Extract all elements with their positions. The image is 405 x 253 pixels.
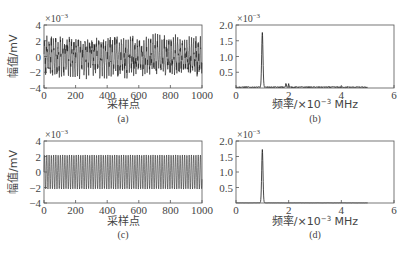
y-tick-label: 2 bbox=[36, 151, 42, 163]
panel-b: 2.01.51.00.50246×10−3频率/×10−3 MHz(b) bbox=[219, 12, 397, 125]
plot-frame bbox=[236, 25, 394, 88]
y-tick-label: −4 bbox=[29, 197, 41, 209]
x-tick-label: 0 bbox=[233, 204, 239, 216]
panel-caption: (c) bbox=[117, 229, 128, 241]
y-exponent: ×10−3 bbox=[237, 12, 261, 24]
y-tick-label: 2 bbox=[36, 35, 42, 47]
x-axis-label: 采样点 bbox=[107, 214, 140, 228]
panel-caption: (a) bbox=[117, 113, 128, 125]
y-tick-label: 0.5 bbox=[219, 66, 233, 78]
y-axis-label: 幅值/mV bbox=[7, 34, 20, 78]
x-tick-label: 200 bbox=[67, 204, 84, 216]
plot-frame bbox=[236, 141, 394, 203]
panel-a: 420−2−402004006008001000×10−3采样点幅值/mV(a) bbox=[7, 12, 214, 125]
y-tick-label: 4 bbox=[36, 19, 42, 31]
x-tick-label: 1000 bbox=[191, 204, 214, 216]
y-exponent: ×10−3 bbox=[45, 128, 69, 140]
x-tick-label: 200 bbox=[67, 89, 84, 101]
x-tick-label: 6 bbox=[391, 89, 397, 101]
y-tick-label: 2.0 bbox=[219, 135, 233, 147]
y-tick-label: −2 bbox=[29, 66, 41, 78]
y-axis-label: 幅值/mV bbox=[7, 150, 20, 194]
y-tick-label: 1.5 bbox=[219, 35, 233, 47]
x-tick-label: 800 bbox=[162, 89, 179, 101]
panel-d: 2.01.51.00.50246×10−3频率/×10−3 MHz(d) bbox=[219, 128, 397, 241]
x-tick-label: 0 bbox=[233, 89, 239, 101]
y-tick-label: −2 bbox=[29, 182, 41, 194]
y-tick-label: 1.0 bbox=[219, 51, 233, 63]
series-line bbox=[44, 155, 202, 189]
x-tick-label: 0 bbox=[41, 89, 47, 101]
x-tick-label: 800 bbox=[162, 204, 179, 216]
series-line bbox=[44, 33, 202, 79]
figure: 420−2−402004006008001000×10−3采样点幅值/mV(a)… bbox=[0, 0, 405, 253]
panel-c: 420−2−402004006008001000×10−3采样点幅值/mV(c) bbox=[7, 128, 214, 241]
series-line bbox=[236, 150, 368, 203]
y-tick-label: 2.0 bbox=[219, 19, 233, 31]
y-tick-label: 0 bbox=[36, 166, 42, 178]
y-tick-label: 0 bbox=[36, 51, 42, 63]
x-axis-label: 频率/×10−3 MHz bbox=[272, 214, 359, 228]
series-line bbox=[236, 33, 368, 88]
x-axis-label: 频率/×10−3 MHz bbox=[272, 97, 359, 111]
y-tick-label: 0.5 bbox=[219, 182, 233, 194]
y-tick-label: 1.0 bbox=[219, 166, 233, 178]
y-exponent: ×10−3 bbox=[237, 128, 261, 140]
y-tick-label: 1.5 bbox=[219, 151, 233, 163]
x-tick-label: 6 bbox=[391, 204, 397, 216]
x-axis-label: 采样点 bbox=[107, 97, 140, 111]
x-tick-label: 0 bbox=[41, 204, 47, 216]
y-exponent: ×10−3 bbox=[45, 12, 69, 24]
panel-caption: (b) bbox=[309, 113, 321, 125]
y-tick-label: −4 bbox=[29, 82, 41, 94]
x-tick-label: 1000 bbox=[191, 89, 214, 101]
panel-caption: (d) bbox=[309, 229, 321, 241]
y-tick-label: 4 bbox=[36, 135, 42, 147]
